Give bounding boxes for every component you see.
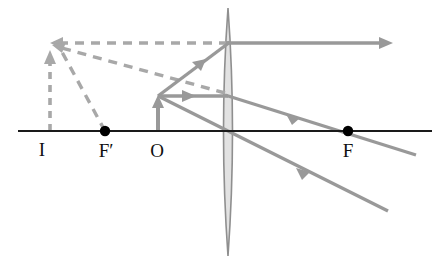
virtual-image-arrow [44,50,56,131]
object-arrow [152,95,164,131]
object-label: O [150,140,164,161]
virtual-image-arrowhead [44,50,56,64]
ray-through-vertex-refracted [228,131,388,211]
optics-ray-diagram: I F′ O F [0,0,445,264]
focus-near-dot [100,126,110,136]
dashed-vertex-backward-ray [62,52,105,131]
ray-center-incident-arrowhead [182,90,196,102]
far-focus-label: F [343,140,354,161]
focus-far-dot [343,126,353,136]
ray-center-refracted [225,95,416,155]
ray-parallel-incident [158,42,230,96]
ray-parallel-refracted-arrowhead [379,37,393,49]
ray-diagram-canvas: I F′ O F [0,0,445,264]
near-focus-label: F′ [99,140,114,161]
solid-light-rays [158,42,416,211]
ray-through-vertex-incident [158,96,228,131]
image-label: I [39,139,45,160]
